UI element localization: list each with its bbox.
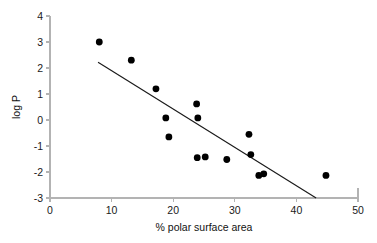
scatter-plot: 43210-1-2-301020304050 % polar surface a… (0, 0, 377, 243)
x-tick-label: 0 (47, 204, 53, 216)
data-point (260, 170, 267, 177)
axis-tick-labels: 43210-1-2-301020304050 (34, 10, 364, 216)
y-tick-label: 0 (37, 114, 43, 126)
y-tick-label: 2 (37, 62, 43, 74)
y-tick-label: -3 (34, 192, 43, 204)
trend-line (98, 62, 316, 198)
data-point (194, 115, 201, 122)
chart-container: 43210-1-2-301020304050 % polar surface a… (0, 0, 377, 243)
data-point (202, 154, 209, 161)
axis-ticks (46, 16, 358, 202)
data-point (223, 156, 230, 163)
x-tick-label: 40 (291, 204, 303, 216)
y-axis-title: log P (10, 95, 22, 119)
data-point (194, 154, 201, 161)
data-points (96, 39, 329, 179)
x-axis-title: % polar surface area (156, 221, 253, 233)
data-point (162, 115, 169, 122)
data-point (153, 85, 160, 92)
y-tick-label: 1 (37, 88, 43, 100)
data-point (96, 39, 103, 46)
data-point (247, 151, 254, 158)
y-tick-label: -2 (34, 166, 43, 178)
data-point (323, 172, 330, 179)
y-tick-label: 3 (37, 36, 43, 48)
x-tick-label: 50 (352, 204, 364, 216)
x-tick-label: 10 (106, 204, 118, 216)
data-point (128, 57, 135, 64)
regression-line (98, 62, 316, 198)
x-tick-label: 20 (167, 204, 179, 216)
y-tick-label: -1 (34, 140, 43, 152)
data-point (246, 131, 253, 138)
x-tick-label: 30 (229, 204, 241, 216)
data-point (193, 100, 200, 107)
y-tick-label: 4 (37, 10, 43, 22)
data-point (165, 134, 172, 141)
